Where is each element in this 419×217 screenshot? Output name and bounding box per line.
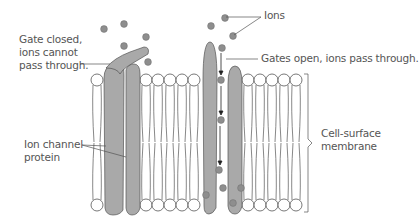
ion — [208, 23, 215, 30]
ion — [145, 59, 152, 66]
ion — [230, 33, 237, 40]
ion — [238, 185, 245, 192]
label-ion-channel-protein: Ion channel protein — [24, 138, 83, 164]
open-channel-right-protein — [228, 66, 242, 214]
closed-channel-left-protein — [104, 64, 124, 215]
ion — [230, 200, 237, 207]
label-gate-closed: Gate closed, ions cannot pass through. — [19, 33, 88, 72]
ion-flow-arrows — [218, 53, 223, 165]
membrane-middle-segment — [140, 74, 200, 211]
membrane-right-segment — [242, 74, 302, 211]
label-gates-open: Gates open, ions pass through. — [261, 52, 419, 65]
ion — [218, 117, 225, 124]
ion — [218, 77, 225, 84]
label-ions: Ions — [264, 9, 285, 22]
label-cell-surface-membrane: Cell-surface membrane — [321, 127, 381, 153]
ion — [101, 26, 108, 33]
ion — [216, 167, 223, 174]
ion — [222, 15, 229, 22]
ion — [143, 34, 150, 41]
open-channel-left-protein — [203, 42, 217, 214]
ion — [203, 192, 210, 199]
ion — [219, 45, 226, 52]
ion — [121, 21, 128, 28]
leader-ions-2 — [234, 17, 261, 35]
ion — [220, 185, 227, 192]
membrane-left-segment — [91, 74, 103, 211]
membrane-bracket — [304, 74, 312, 212]
closed-channel-right-protein — [126, 64, 140, 215]
ion — [121, 43, 128, 50]
